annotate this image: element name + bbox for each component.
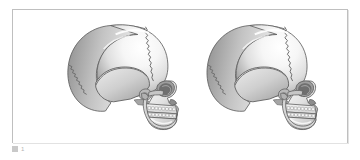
caption-number: 1 [21,146,24,152]
figure-panel [12,9,348,143]
figure-caption: 图 1 [12,146,24,152]
skull-illustration [13,10,347,143]
caption-marker-icon [12,146,18,152]
